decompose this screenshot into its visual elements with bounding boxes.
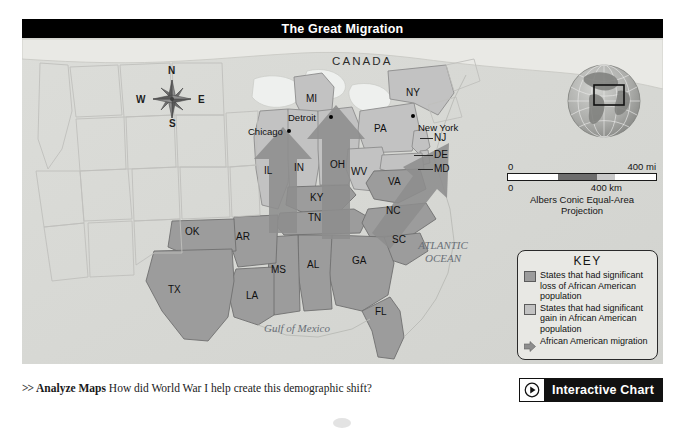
state-label-MI: MI <box>306 93 317 104</box>
city-dot-chicago <box>287 129 291 133</box>
state-label-MS: MS <box>271 264 286 275</box>
scale-bar-graphic <box>507 173 657 181</box>
projection-line-2: Projection <box>507 206 657 217</box>
scale-bar-group: 0 400 mi 0 400 km Albers Conic Equal-Are… <box>507 161 657 217</box>
key-label-loss: States that had significant loss of Afri… <box>540 270 651 302</box>
state-label-IL: IL <box>264 165 272 176</box>
compass-label-north: N <box>168 65 175 76</box>
state-label-NC: NC <box>386 205 400 216</box>
compass-rose: N E S W <box>135 66 209 130</box>
state-label-TN: TN <box>308 212 321 223</box>
key-swatch-loss-icon <box>524 271 536 282</box>
state-label-GA: GA <box>352 255 366 266</box>
globe-inset <box>560 57 648 145</box>
city-label-chicago: Chicago <box>248 126 283 137</box>
scale-km-end: 400 km <box>591 182 622 193</box>
key-label-migration: African American migration <box>540 336 648 347</box>
play-icon[interactable] <box>520 379 544 401</box>
label-atlantic-ocean: ATLANTIC OCEAN <box>400 239 486 264</box>
state-label-OH: OH <box>330 159 345 170</box>
analyze-maps-prompt: >> Analyze Maps How did World War I help… <box>22 382 372 394</box>
key-title: KEY <box>524 254 651 268</box>
play-circle-icon <box>524 382 540 398</box>
analyze-chevron: >> <box>22 382 33 394</box>
projection-note: Albers Conic Equal-Area Projection <box>507 195 657 217</box>
state-label-OK: OK <box>185 226 199 237</box>
page-footer-dot <box>333 418 351 428</box>
state-label-TX: TX <box>168 284 181 295</box>
state-label-WV: WV <box>351 166 367 177</box>
leader-line-de <box>414 155 433 156</box>
interactive-chart-label: Interactive Chart <box>544 379 662 401</box>
analyze-maps-question: How did World War I help create this dem… <box>109 382 372 394</box>
state-label-PA: PA <box>374 123 387 134</box>
city-dot-detroit <box>329 115 333 119</box>
state-label-IN: IN <box>294 162 304 173</box>
state-label-SC: SC <box>392 234 406 245</box>
key-label-gain: States that had significant gain in Afri… <box>540 303 651 335</box>
city-dot-new-york <box>411 114 415 118</box>
state-label-MD: MD <box>434 163 450 174</box>
leader-line-nj <box>420 138 433 139</box>
compass-label-east: E <box>198 94 205 105</box>
atlantic-line-1: ATLANTIC <box>400 239 486 252</box>
interactive-chart-button[interactable]: Interactive Chart <box>519 378 663 402</box>
state-label-NY: NY <box>406 87 420 98</box>
state-label-VA: VA <box>388 176 401 187</box>
globe-icon <box>560 57 648 145</box>
scale-miles-end: 400 mi <box>627 161 656 172</box>
scale-km-row: 0 400 km <box>507 182 657 193</box>
state-label-DE: DE <box>434 149 448 160</box>
key-entry-migration: African American migration <box>524 336 651 349</box>
state-label-FL: FL <box>375 306 387 317</box>
compass-label-south: S <box>169 118 176 129</box>
key-entry-loss: States that had significant loss of Afri… <box>524 270 651 302</box>
map-title-bar: The Great Migration <box>22 19 663 38</box>
migration-arrow-icon <box>524 341 536 352</box>
analyze-maps-label: Analyze Maps <box>36 382 106 394</box>
key-entry-gain: States that had significant gain in Afri… <box>524 303 651 335</box>
map-title: The Great Migration <box>282 22 404 36</box>
label-canada: CANADA <box>332 55 393 67</box>
compass-label-west: W <box>136 94 145 105</box>
map-figure: The Great Migration CANADA ATLANTIC OCEA… <box>22 19 663 364</box>
atlantic-line-2: OCEAN <box>400 252 486 265</box>
state-label-AR: AR <box>236 231 250 242</box>
key-swatch-arrow-icon <box>524 338 536 349</box>
map-key: KEY States that had significant loss of … <box>517 250 658 360</box>
leader-line-md <box>418 169 433 170</box>
label-gulf-of-mexico: Gulf of Mexico <box>242 322 352 335</box>
state-label-AL: AL <box>307 259 319 270</box>
city-label-new-york: New York <box>418 122 458 133</box>
scale-miles-row: 0 400 mi <box>507 161 657 172</box>
state-label-KY: KY <box>310 192 323 203</box>
state-label-LA: LA <box>246 290 258 301</box>
scale-km-start: 0 <box>508 182 513 193</box>
figure-footer: >> Analyze Maps How did World War I help… <box>22 378 663 404</box>
city-label-detroit: Detroit <box>288 112 316 123</box>
key-swatch-gain-icon <box>524 304 536 315</box>
state-label-NJ: NJ <box>434 132 446 143</box>
scale-miles-start: 0 <box>508 161 513 172</box>
